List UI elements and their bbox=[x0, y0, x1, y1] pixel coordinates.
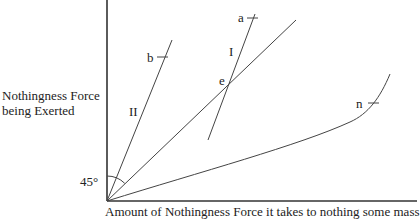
x-axis-label: Amount of Nothingness Force it takes to … bbox=[105, 204, 420, 219]
label-line-one: I bbox=[229, 44, 233, 59]
y-axis-label-line2: being Exerted bbox=[2, 103, 75, 118]
curve-n bbox=[107, 74, 390, 201]
label-point-a: a bbox=[238, 10, 244, 25]
angle-label: 45° bbox=[80, 174, 98, 189]
line-one bbox=[208, 14, 255, 140]
label-line-two: II bbox=[129, 104, 138, 119]
label-point-b: b bbox=[147, 50, 154, 65]
y-axis-label-line1: Nothingness Force bbox=[2, 88, 100, 103]
line-two bbox=[107, 40, 172, 201]
label-point-n: n bbox=[356, 96, 363, 111]
label-point-e: e bbox=[219, 73, 225, 88]
